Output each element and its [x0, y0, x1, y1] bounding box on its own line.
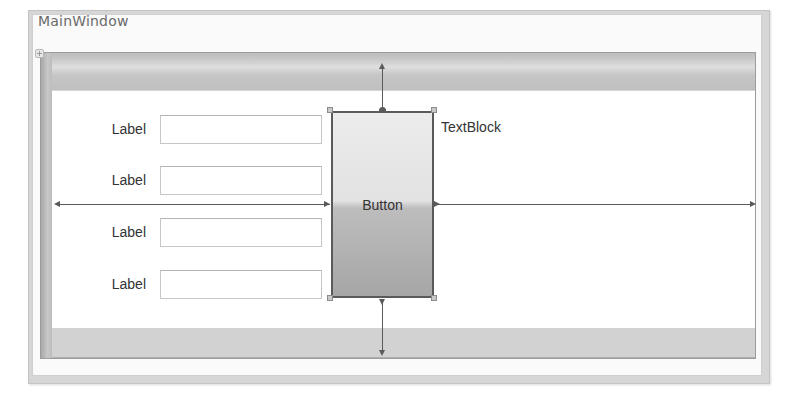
- bottom-margin-line: [382, 299, 383, 353]
- resize-handle-bottom-right[interactable]: [431, 295, 437, 301]
- textbox-3[interactable]: [160, 218, 322, 247]
- grid-column-ruler-left[interactable]: [41, 53, 52, 358]
- grid-move-icon[interactable]: [35, 49, 44, 58]
- textblock[interactable]: TextBlock: [441, 119, 501, 135]
- right-margin-line: [438, 204, 752, 205]
- button[interactable]: Button: [331, 111, 434, 298]
- grid-row-ruler-top[interactable]: [52, 53, 755, 91]
- label-1: Label: [96, 121, 146, 137]
- resize-handle-bottom-left[interactable]: [327, 295, 333, 301]
- label-2: Label: [96, 172, 146, 188]
- arrow-right-icon: [750, 201, 756, 207]
- resize-handle-top-right[interactable]: [431, 107, 437, 113]
- anchor-left-icon[interactable]: [324, 201, 330, 207]
- left-margin-line: [58, 204, 330, 205]
- label-4: Label: [96, 276, 146, 292]
- label-3: Label: [96, 224, 146, 240]
- top-margin-line: [382, 68, 383, 110]
- resize-handle-top-left[interactable]: [327, 107, 333, 113]
- window-title: MainWindow: [38, 13, 129, 29]
- arrow-down-icon: [379, 350, 385, 356]
- grid-row-ruler-bottom[interactable]: [52, 328, 755, 358]
- arrow-up-icon: [379, 63, 385, 69]
- textbox-4[interactable]: [160, 270, 322, 299]
- textbox-1[interactable]: [160, 115, 322, 144]
- anchor-bottom-icon[interactable]: [379, 299, 385, 305]
- arrow-left-icon: [54, 201, 60, 207]
- anchor-right-icon[interactable]: [434, 201, 440, 207]
- textbox-2[interactable]: [160, 166, 322, 195]
